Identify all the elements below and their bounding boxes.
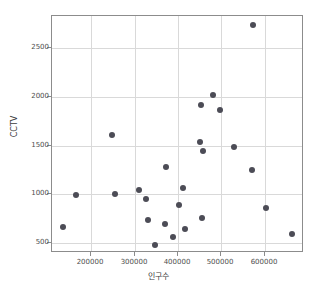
- data-point: [199, 215, 205, 221]
- y-tick-label: 2000: [31, 92, 49, 100]
- x-tick-mark: [220, 252, 221, 256]
- data-point: [152, 242, 158, 248]
- data-point: [249, 167, 255, 173]
- data-point: [250, 22, 256, 28]
- gridline-vertical: [135, 16, 136, 251]
- data-point: [180, 185, 186, 191]
- x-tick-label: 500000: [207, 258, 234, 266]
- data-point: [136, 187, 142, 193]
- y-tick-label: 500: [36, 238, 49, 246]
- x-tick-label: 200000: [77, 258, 104, 266]
- data-point: [289, 231, 295, 237]
- x-tick-mark: [177, 252, 178, 256]
- y-axis-label: CCTV: [10, 97, 19, 157]
- data-point: [217, 107, 223, 113]
- gridline-vertical: [221, 16, 222, 251]
- data-point: [109, 132, 115, 138]
- x-tick-label: 600000: [251, 258, 278, 266]
- x-axis-label: 인구수: [0, 270, 316, 281]
- y-tick-label: 1000: [31, 189, 49, 197]
- data-point: [145, 217, 151, 223]
- data-point: [197, 139, 203, 145]
- data-point: [73, 192, 79, 198]
- gridline-vertical: [265, 16, 266, 251]
- y-tick-label: 2500: [31, 43, 49, 51]
- data-point: [231, 144, 237, 150]
- gridline-vertical: [91, 16, 92, 251]
- x-tick-mark: [264, 252, 265, 256]
- data-point: [198, 102, 204, 108]
- data-point: [176, 202, 182, 208]
- x-tick-mark: [134, 252, 135, 256]
- data-point: [162, 221, 168, 227]
- data-point: [143, 196, 149, 202]
- data-point: [112, 191, 118, 197]
- data-point: [163, 164, 169, 170]
- data-point: [60, 224, 66, 230]
- plot-area: [51, 15, 303, 252]
- x-tick-mark: [90, 252, 91, 256]
- x-tick-label: 400000: [164, 258, 191, 266]
- x-tick-label: 300000: [121, 258, 148, 266]
- scatter-chart: 5001000150020002500200000300000400000500…: [0, 0, 316, 291]
- y-tick-label: 1500: [31, 141, 49, 149]
- data-point: [182, 226, 188, 232]
- gridline-vertical: [178, 16, 179, 251]
- data-point: [263, 205, 269, 211]
- data-point: [170, 234, 176, 240]
- data-point: [200, 148, 206, 154]
